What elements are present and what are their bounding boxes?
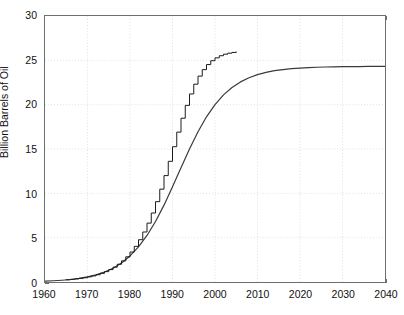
x-tick-mark bbox=[386, 279, 387, 283]
x-tick-label: 1980 bbox=[118, 289, 141, 300]
x-tick-label: 2040 bbox=[374, 289, 397, 300]
x-tick-mark-top bbox=[386, 16, 387, 20]
data-series-layer bbox=[45, 16, 385, 282]
series-path-0 bbox=[45, 66, 385, 281]
y-tick-label: 20 bbox=[0, 99, 37, 110]
x-tick-label: 2010 bbox=[246, 289, 269, 300]
y-tick-label: 15 bbox=[0, 144, 37, 155]
y-tick-label: 10 bbox=[0, 188, 37, 199]
x-tick-label: 1960 bbox=[32, 289, 55, 300]
x-tick-label: 2030 bbox=[332, 289, 355, 300]
x-tick-label: 2000 bbox=[203, 289, 226, 300]
x-tick-label: 1990 bbox=[161, 289, 184, 300]
y-tick-mark bbox=[45, 283, 49, 284]
chart-figure: Billion Barrels of Oil 30252015105019601… bbox=[0, 0, 404, 315]
series-path-1 bbox=[66, 52, 236, 280]
y-tick-label: 5 bbox=[0, 233, 37, 244]
y-tick-label: 30 bbox=[0, 10, 37, 21]
x-tick-label: 2020 bbox=[289, 289, 312, 300]
plot-area bbox=[44, 15, 386, 283]
x-tick-label: 1970 bbox=[75, 289, 98, 300]
y-tick-label: 25 bbox=[0, 54, 37, 65]
y-tick-label: 0 bbox=[0, 278, 37, 289]
